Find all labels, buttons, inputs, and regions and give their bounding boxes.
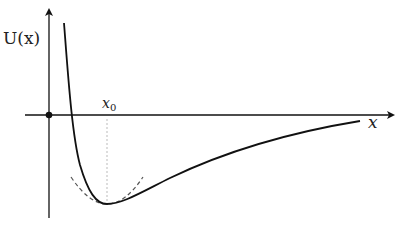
origin-dot [46, 112, 53, 119]
potential-curve [64, 23, 360, 204]
equilibrium-label: x0 [102, 95, 116, 113]
x-axis-label: x [368, 112, 378, 132]
y-axis-label: U(x) [3, 28, 40, 48]
potential-diagram: U(x) x x0 [0, 0, 404, 228]
